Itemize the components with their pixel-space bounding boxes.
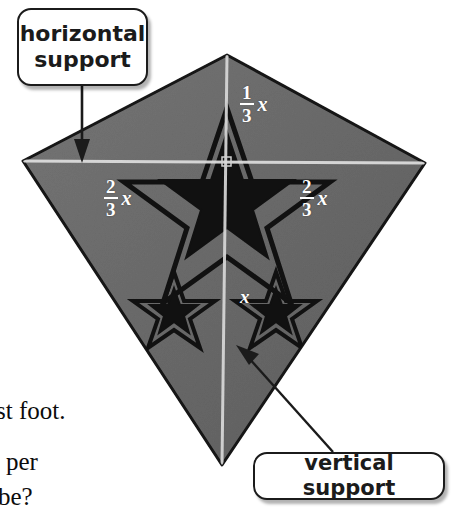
label-two-thirds-x-left: 2 3 x — [104, 177, 132, 219]
callout-vertical-support: vertical support — [253, 452, 445, 500]
callout-label: vertical support — [255, 451, 443, 501]
callout-line-1: horizontal — [20, 21, 146, 47]
fraction-denominator: 3 — [300, 200, 314, 219]
fraction-denominator: 3 — [240, 106, 254, 125]
fraction-one-third: 1 3 — [240, 83, 254, 125]
variable-x: x — [318, 187, 328, 210]
fraction-numerator: 1 — [240, 83, 254, 102]
label-one-third-x: 1 3 x — [240, 83, 268, 125]
label-x: x — [240, 286, 250, 308]
page-text-fragment-1: st foot. — [0, 398, 65, 423]
variable-x: x — [258, 93, 268, 116]
kite-figure: 1 3 x 2 3 x 2 3 x x horizontal support v… — [0, 0, 452, 529]
variable-x: x — [240, 286, 250, 308]
fraction-numerator: 2 — [300, 177, 314, 196]
fraction-two-thirds: 2 3 — [104, 177, 118, 219]
page-text-fragment-3: be? — [0, 484, 33, 509]
fraction-two-thirds: 2 3 — [300, 177, 314, 219]
fraction-numerator: 2 — [104, 177, 118, 196]
label-two-thirds-x-right: 2 3 x — [300, 177, 328, 219]
callout-horizontal-support: horizontal support — [17, 8, 148, 86]
fraction-denominator: 3 — [104, 200, 118, 219]
variable-x: x — [122, 187, 132, 210]
page-text-fragment-2: per — [6, 449, 38, 474]
callout-line-2: support — [20, 47, 146, 73]
horizontal-support-line — [23, 161, 425, 163]
